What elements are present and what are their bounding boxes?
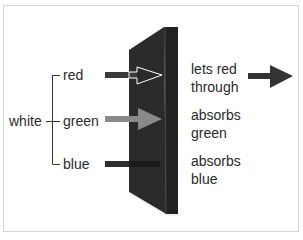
result-blue: absorbs blue bbox=[191, 152, 271, 188]
blue-arrow-shaft-front bbox=[129, 161, 160, 167]
blue-arrow-shaft bbox=[105, 161, 130, 167]
result-red: lets red through bbox=[191, 60, 271, 96]
component-label-red: red bbox=[63, 67, 83, 84]
component-label-blue: blue bbox=[63, 156, 89, 173]
source-label-white: white bbox=[9, 113, 42, 130]
result-green: absorbs green bbox=[191, 106, 271, 142]
component-bracket bbox=[46, 75, 60, 165]
red-arrow-shaft-front bbox=[129, 72, 137, 78]
component-label-green: green bbox=[63, 113, 99, 130]
green-arrow-shaft-front bbox=[129, 116, 139, 122]
